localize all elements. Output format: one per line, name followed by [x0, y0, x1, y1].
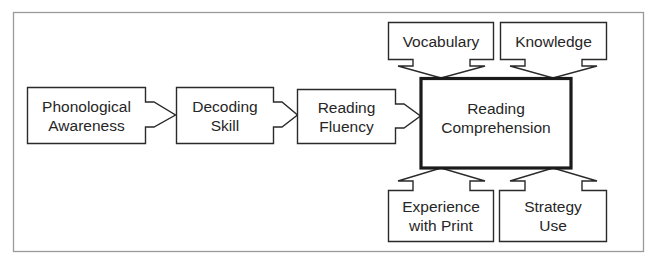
- reading-model-diagram: Phonological Awareness Decoding Skill Re…: [0, 0, 655, 264]
- label-line: Experience: [402, 197, 480, 216]
- label-line: Decoding: [192, 97, 258, 116]
- node-decoding-label: Decoding Skill: [176, 87, 274, 144]
- label-line: Awareness: [42, 116, 131, 135]
- label-line: Phonological: [42, 97, 131, 116]
- label-line: Vocabulary: [403, 32, 480, 51]
- node-fluency-label: Reading Fluency: [297, 89, 396, 144]
- label-line: Use: [524, 216, 582, 235]
- label-line: Skill: [192, 116, 258, 135]
- label-line: Knowledge: [515, 32, 592, 51]
- node-vocabulary-label: Vocabulary: [388, 22, 494, 60]
- label-line: Reading: [441, 99, 550, 118]
- label-line: Strategy: [524, 197, 582, 216]
- node-strategy-label: Strategy Use: [499, 190, 607, 242]
- label-line: Fluency: [318, 117, 376, 136]
- node-knowledge-label: Knowledge: [500, 22, 607, 60]
- node-phonological-label: Phonological Awareness: [27, 87, 146, 144]
- label-line: Comprehension: [441, 118, 550, 137]
- label-line: with Print: [402, 216, 480, 235]
- node-comprehension-label: Reading Comprehension: [421, 79, 571, 157]
- node-experience-label: Experience with Print: [388, 190, 494, 242]
- label-line: Reading: [318, 98, 376, 117]
